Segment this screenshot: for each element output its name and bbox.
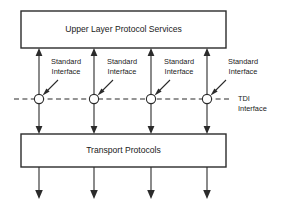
tdi-label-line1: TDI <box>238 94 250 103</box>
channel-4-up-arrowhead <box>204 48 211 56</box>
channel-2 <box>89 48 98 199</box>
standard-interface-label-4-line2: Interface <box>229 67 258 76</box>
standard-interface-label-1-line1: Standard <box>51 57 81 66</box>
channel-3-down-arrowhead <box>148 126 155 134</box>
channel-2-up-arrowhead <box>91 48 98 56</box>
channel-2-node-circle <box>89 94 98 103</box>
channel-3-outflow-arrowhead <box>147 190 155 199</box>
channel-3-up-arrowhead <box>148 48 155 56</box>
standard-interface-label-3-line2: Interface <box>165 67 194 76</box>
upper-layer-protocol-services-box: Upper Layer Protocol Services <box>21 11 226 48</box>
channel-1-outflow-arrowhead <box>35 190 43 199</box>
tdi-label-line2: Interface <box>238 104 267 113</box>
standard-interface-callout-3: Standard Interface <box>155 57 194 95</box>
channel-4-down-arrowhead <box>204 126 211 134</box>
channel-1 <box>34 48 43 199</box>
channel-1-node-circle <box>34 94 43 103</box>
standard-interface-label-1-line2: Interface <box>52 67 81 76</box>
channel-2-outflow-arrowhead <box>90 190 98 199</box>
standard-interface-label-2-line1: Standard <box>107 57 137 66</box>
channel-3-node-circle <box>146 94 155 103</box>
channel-4-node-circle <box>202 94 211 103</box>
standard-interface-callout-2: Standard Interface <box>98 57 137 95</box>
channel-1-up-arrowhead <box>36 48 43 56</box>
channel-4-outflow-arrowhead <box>203 190 211 199</box>
standard-interface-callout-1: Standard Interface <box>43 57 81 95</box>
transport-protocols-box: Transport Protocols <box>21 134 226 167</box>
top-box-label: Upper Layer Protocol Services <box>65 24 182 34</box>
standard-interface-callout-4: Standard Interface <box>211 57 258 95</box>
tdi-interface-label: TDI Interface <box>238 94 267 113</box>
channel-4 <box>202 48 211 199</box>
diagram-canvas: Upper Layer Protocol Services Transport … <box>0 0 285 206</box>
channel-1-down-arrowhead <box>36 126 43 134</box>
standard-interface-label-3-line1: Standard <box>164 57 194 66</box>
standard-interface-label-2-line2: Interface <box>108 67 137 76</box>
channel-3 <box>146 48 155 199</box>
bottom-box-label: Transport Protocols <box>86 145 161 155</box>
channel-2-down-arrowhead <box>91 126 98 134</box>
tdi-architecture-diagram: Upper Layer Protocol Services Transport … <box>0 0 285 206</box>
standard-interface-label-4-line1: Standard <box>228 57 258 66</box>
